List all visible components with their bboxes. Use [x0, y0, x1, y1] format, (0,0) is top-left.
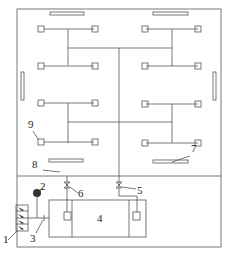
grille-top-right — [153, 12, 188, 15]
grille-left — [21, 72, 24, 100]
label-1: 1 — [3, 233, 9, 245]
diagram-canvas: 1 2 3 4 5 6 7 8 9 — [0, 0, 225, 253]
grille-8 — [49, 159, 83, 162]
schematic-svg: 1 2 3 4 5 6 7 8 9 — [0, 0, 225, 253]
label-6: 6 — [78, 187, 84, 199]
label-4: 4 — [97, 212, 103, 224]
label-8: 8 — [32, 158, 38, 170]
label-7: 7 — [191, 142, 197, 154]
grille-right — [213, 72, 216, 100]
label-9: 9 — [28, 118, 34, 130]
grille-top-left — [50, 12, 84, 15]
label-5: 5 — [137, 184, 143, 196]
diffusers — [38, 26, 201, 146]
label-2: 2 — [40, 180, 46, 192]
grille-7 — [153, 160, 188, 163]
label-3: 3 — [30, 232, 36, 244]
